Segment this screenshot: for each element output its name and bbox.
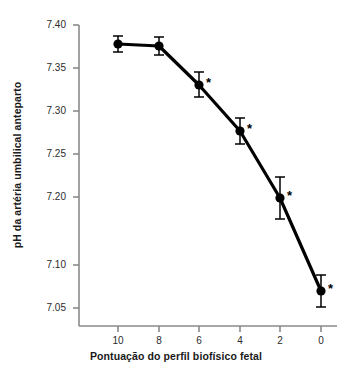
significance-asterisk: * [247,122,252,135]
x-tick-label: 2 [270,335,290,346]
data-point [154,41,163,50]
x-tick-label: 6 [189,335,209,346]
significance-asterisk: * [206,76,211,89]
data-markers [113,39,325,295]
y-axis-title: pH da artéria umbilical anteparto [11,82,23,249]
x-tick-label: 0 [311,335,331,346]
axis-lines [79,25,337,326]
significance-asterisk: * [328,282,333,295]
x-axis-ticks [118,326,321,332]
x-axis-title: Pontuação do perfil biofísico fetal [0,350,352,362]
data-point [316,286,325,295]
x-tick-label: 8 [149,335,169,346]
chart-plot-area [0,0,352,374]
error-bars [113,36,326,307]
y-axis-title-wrapper: pH da artéria umbilical anteparto [0,0,34,330]
y-axis-ticks [73,25,79,308]
data-point [113,39,122,48]
figure-container: 7.40 7.35 7.30 7.25 7.20 7.10 7.05 10 8 … [0,0,352,374]
data-point [235,126,244,135]
x-tick-label: 10 [108,335,128,346]
significance-asterisk: * [287,189,292,202]
x-tick-label: 4 [230,335,250,346]
data-point [194,80,203,89]
data-point [275,193,284,202]
data-line [118,44,321,291]
